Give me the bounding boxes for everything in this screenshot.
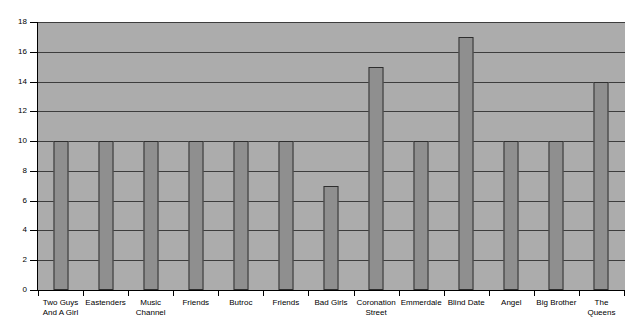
y-axis-label-4: 4 [0, 226, 27, 234]
x-tick [624, 291, 625, 296]
y-axis-label-2: 2 [0, 256, 27, 264]
y-axis-label-8: 8 [0, 167, 27, 175]
bar[interactable] [594, 82, 609, 290]
bar[interactable] [414, 141, 429, 290]
x-tick [83, 291, 84, 296]
bar[interactable] [233, 141, 248, 290]
bar-slot [399, 22, 444, 290]
bar[interactable] [549, 141, 564, 290]
y-axis-label-16: 16 [0, 48, 27, 56]
bar[interactable] [143, 141, 158, 290]
bar[interactable] [323, 186, 338, 290]
x-tick [354, 291, 355, 296]
y-tick-14 [30, 82, 37, 83]
bar[interactable] [504, 141, 519, 290]
bar[interactable] [98, 141, 113, 290]
x-tick [579, 291, 580, 296]
y-axis-label-6: 6 [0, 197, 27, 205]
y-tick-12 [30, 111, 37, 112]
bar-slot [534, 22, 579, 290]
y-axis-label-14: 14 [0, 78, 27, 86]
y-tick-16 [30, 52, 37, 53]
x-tick [534, 291, 535, 296]
y-tick-2 [30, 260, 37, 261]
x-tick [173, 291, 174, 296]
y-tick-4 [30, 230, 37, 231]
x-tick [489, 291, 490, 296]
bars-layer [38, 22, 624, 290]
y-tick-6 [30, 201, 37, 202]
x-tick [263, 291, 264, 296]
bar-slot [263, 22, 308, 290]
x-axis-label: The Queens [573, 298, 626, 318]
bar[interactable] [369, 67, 384, 290]
y-tick-8 [30, 171, 37, 172]
x-tick [399, 291, 400, 296]
bar[interactable] [278, 141, 293, 290]
bar[interactable] [459, 37, 474, 290]
bar-slot [83, 22, 128, 290]
y-axis-label-18: 18 [0, 18, 27, 26]
bar-slot [218, 22, 263, 290]
bar-slot [128, 22, 173, 290]
bar[interactable] [188, 141, 203, 290]
y-axis-label-10: 10 [0, 137, 27, 145]
bar-slot [173, 22, 218, 290]
x-tick [128, 291, 129, 296]
x-tick [218, 291, 219, 296]
bar-slot [308, 22, 353, 290]
y-axis-label-0: 0 [0, 286, 27, 294]
y-tick-0 [30, 290, 37, 291]
x-tick [38, 291, 39, 296]
y-tick-10 [30, 141, 37, 142]
bar-chart: 18 16 14 12 10 8 6 4 2 0 Two Guys And A … [0, 0, 626, 327]
y-axis-label-12: 12 [0, 107, 27, 115]
bar-slot [579, 22, 624, 290]
bar-slot [444, 22, 489, 290]
bar-slot [38, 22, 83, 290]
x-tick [444, 291, 445, 296]
bar[interactable] [53, 141, 68, 290]
y-tick-18 [30, 22, 37, 23]
bar-slot [354, 22, 399, 290]
bar-slot [489, 22, 534, 290]
x-axis-line [37, 290, 625, 291]
x-tick [308, 291, 309, 296]
